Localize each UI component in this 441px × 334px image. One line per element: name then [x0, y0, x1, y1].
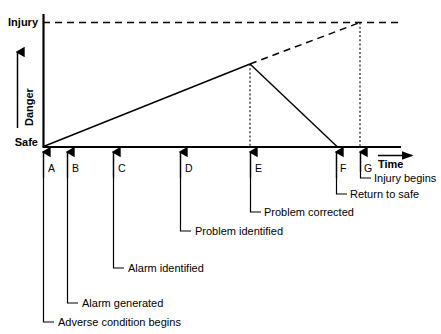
marker-e-leader-line: [251, 178, 262, 212]
danger-vs-time-diagram: Injury Safe Danger Time A: [0, 0, 441, 334]
x-axis-label: Time: [378, 158, 403, 170]
marker-b[interactable]: B Alarm generated: [68, 152, 164, 309]
marker-d-leader-line: [181, 178, 192, 231]
danger-axis-group: Danger: [18, 52, 36, 128]
y-axis-label: Danger: [23, 87, 35, 126]
marker-c-letter: C: [118, 162, 126, 174]
marker-d-callout: Problem identified: [195, 225, 283, 237]
figure-container: Injury Safe Danger Time A: [0, 0, 441, 334]
marker-f-callout: Return to safe: [350, 188, 419, 200]
y-axis-safe-label: Safe: [15, 136, 38, 148]
marker-e[interactable]: E Problem corrected: [251, 152, 354, 218]
projected-danger-line: [250, 23, 360, 65]
marker-f-leader-line: [337, 178, 348, 194]
marker-a-letter: A: [48, 162, 55, 174]
marker-c-leader-line: [114, 178, 125, 268]
y-axis-injury-label: Injury: [8, 16, 39, 28]
marker-f-letter: F: [340, 162, 346, 174]
falling-danger-line: [250, 64, 337, 147]
marker-d[interactable]: D Problem identified: [181, 152, 284, 237]
drop-lines: [250, 23, 360, 148]
rising-danger-line: [44, 64, 251, 147]
marker-g-callout: Injury begins: [374, 172, 437, 184]
marker-b-letter: B: [72, 162, 79, 174]
marker-a-leader-line: [44, 178, 55, 322]
marker-b-callout: Alarm generated: [82, 297, 163, 309]
marker-e-letter: E: [255, 162, 262, 174]
axis-lines: [43, 14, 402, 147]
data-curves: [44, 23, 361, 147]
marker-g-letter: G: [364, 162, 372, 174]
marker-b-leader-line: [68, 178, 79, 303]
marker-c-callout: Alarm identified: [128, 262, 204, 274]
marker-a-callout: Adverse condition begins: [58, 316, 181, 328]
marker-e-callout: Problem corrected: [264, 206, 354, 218]
time-axis-group: Time: [378, 156, 412, 171]
marker-d-letter: D: [185, 162, 193, 174]
